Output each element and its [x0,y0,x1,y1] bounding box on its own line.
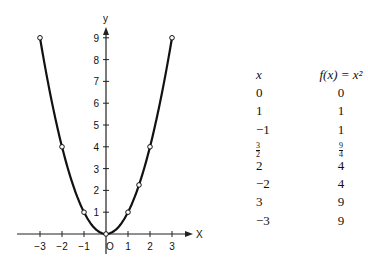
cell-x: −1 [248,122,306,138]
table-row: 11 [248,102,368,120]
cell-x: 3 [248,194,306,210]
y-tick-label: 7 [93,76,99,87]
cell-x: 0 [248,85,306,101]
y-tick-label: 5 [93,120,99,131]
cell-fx: 1 [306,122,368,138]
value-table: x f(x) = x² 0011−11329424−2439−39 [248,66,368,230]
cell-fx: 1 [306,103,368,119]
table-row: 3294 [248,139,368,157]
cell-x: −2 [248,176,306,192]
data-point [170,36,175,41]
cell-fx: 4 [306,176,368,192]
cell-fx: 4 [306,158,368,174]
table-row: −24 [248,175,368,193]
table-row: 00 [248,84,368,102]
data-point [126,210,131,215]
y-tick-label: 3 [93,164,99,175]
data-point [137,183,142,188]
x-axis-label: X [196,229,203,240]
x-tick-label: −3 [34,241,46,252]
table-row: 24 [248,157,368,175]
parabola-plot: Xy−3−2−1O123123456789 [0,0,240,265]
x-axis-arrow-icon [185,231,193,237]
y-tick-label: 8 [93,55,99,66]
cell-fx: 0 [306,85,368,101]
header-x: x [248,67,306,83]
y-tick-label: 2 [93,185,99,196]
table-row: −39 [248,212,368,230]
y-tick-label: 9 [93,33,99,44]
cell-x: 2 [248,158,306,174]
data-point [148,145,153,150]
cell-fx: 94 [306,136,368,159]
data-point [104,232,109,237]
x-tick-label: 3 [169,241,175,252]
cell-x: −3 [248,213,306,229]
y-axis-label: y [103,13,108,24]
cell-x: 1 [248,103,306,119]
data-point [38,36,43,41]
data-point [60,145,65,150]
table-header: x f(x) = x² [248,66,368,84]
x-tick-label: 1 [125,241,131,252]
x-tick-label: −1 [78,241,90,252]
header-fx: f(x) = x² [306,67,368,83]
data-point [82,210,87,215]
x-tick-label: O [106,241,114,252]
x-tick-label: 2 [147,241,153,252]
y-tick-label: 4 [93,142,99,153]
y-tick-label: 1 [93,207,99,218]
y-tick-label: 6 [93,98,99,109]
cell-fx: 9 [306,194,368,210]
y-axis-arrow-icon [103,27,109,35]
cell-fx: 9 [306,213,368,229]
cell-x: 32 [248,136,306,159]
x-tick-label: −2 [56,241,68,252]
table-row: 39 [248,193,368,211]
